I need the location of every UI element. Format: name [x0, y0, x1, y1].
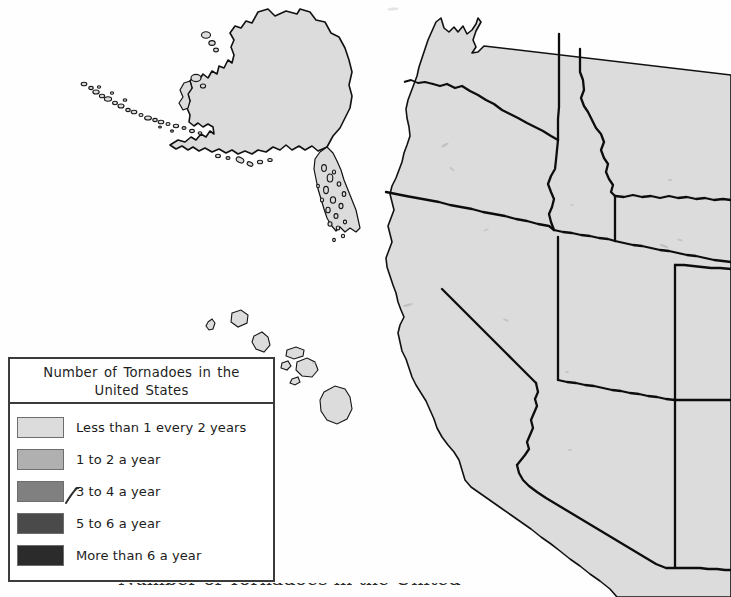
legend-swatch-more-than-6-a-year [17, 545, 64, 566]
legend-title: Number of Tornadoes in the United States [10, 359, 273, 404]
legend-items-list: Less than 1 every 2 years 1 to 2 a year … [10, 404, 273, 571]
legend-swatch-less-than-1-every-2-years [17, 417, 64, 438]
region-alaska [81, 9, 360, 242]
region-western-united-states [386, 18, 731, 597]
map-page: .land { fill: #dcdcdc; stroke: #111111; … [0, 0, 731, 597]
legend-row[interactable]: 5 to 6 a year [10, 507, 273, 539]
legend-swatch-3-to-4-a-year [17, 481, 64, 502]
bottom-caption-text: Number of Tornadoes in the United [118, 583, 461, 589]
legend-swatch-5-to-6-a-year [17, 513, 64, 534]
legend-row[interactable]: Less than 1 every 2 years [10, 411, 273, 443]
legend-label: 3 to 4 a year [76, 484, 160, 499]
legend-row[interactable]: More than 6 a year [10, 539, 273, 571]
map-legend: Number of Tornadoes in the United States… [8, 357, 275, 582]
legend-label: More than 6 a year [76, 548, 201, 563]
legend-label: 5 to 6 a year [76, 516, 160, 531]
legend-row[interactable]: 3 to 4 a year [10, 475, 273, 507]
legend-label: 1 to 2 a year [76, 452, 160, 467]
legend-label: Less than 1 every 2 years [76, 420, 246, 435]
legend-row[interactable]: 1 to 2 a year [10, 443, 273, 475]
legend-swatch-1-to-2-a-year [17, 449, 64, 470]
bottom-caption-strip: Number of Tornadoes in the United [0, 583, 731, 597]
